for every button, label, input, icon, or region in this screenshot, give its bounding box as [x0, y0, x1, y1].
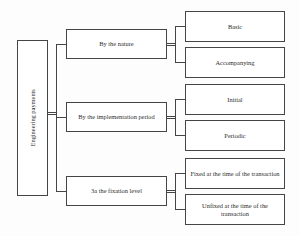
category-node-by-fixation-level: 3a the fixation level	[66, 176, 167, 206]
leaf-label: Unfixed at the time of the transaction	[189, 202, 281, 217]
leaf-label: Periodic	[224, 132, 245, 140]
diagram-canvas: Engineering payments By the nature By th…	[0, 0, 299, 236]
category-label: By the nature	[99, 40, 133, 48]
leaf-node-basic: Basic	[185, 11, 285, 42]
leaf-label: Initial	[227, 96, 242, 104]
leaf-node-fixed: Fixed at the time of the transaction	[185, 158, 285, 189]
leaf-label: Basic	[228, 23, 242, 31]
category-label: By the implementation period	[78, 113, 155, 121]
category-node-by-implementation-period: By the implementation period	[66, 102, 167, 132]
leaf-node-accompanying: Accompanying	[185, 47, 285, 78]
category-label: 3a the fixation level	[91, 187, 142, 195]
leaf-node-periodic: Periodic	[185, 120, 285, 151]
root-node-engineering-payments: Engineering payments	[17, 40, 48, 196]
leaf-node-initial: Initial	[185, 84, 285, 115]
root-node-label: Engineering payments	[29, 89, 37, 146]
leaf-label: Fixed at the time of the transaction	[190, 170, 279, 178]
leaf-node-unfixed: Unfixed at the time of the transaction	[185, 194, 285, 225]
category-node-by-nature: By the nature	[66, 29, 167, 59]
leaf-label: Accompanying	[215, 59, 254, 67]
